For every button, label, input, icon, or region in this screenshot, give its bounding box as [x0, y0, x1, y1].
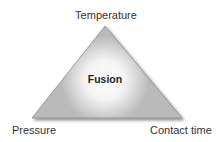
vertex-label-pressure: Pressure: [12, 124, 56, 136]
vertex-label-temperature: Temperature: [0, 9, 212, 21]
vertex-label-contact-time: Contact time: [150, 124, 212, 136]
triangle-graphic: [0, 0, 220, 142]
center-label-fusion: Fusion: [0, 73, 210, 85]
triangle-shape: [32, 26, 182, 118]
fusion-triangle-diagram: Temperature Fusion Pressure Contact time: [0, 0, 220, 142]
